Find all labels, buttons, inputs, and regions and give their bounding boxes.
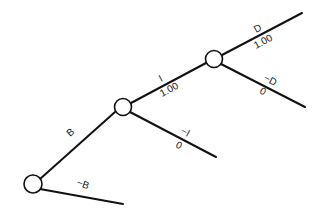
label-d-value: 1.00 [252,32,275,51]
edge-b [40,112,115,179]
chance-node-i [206,51,223,68]
label-not-b: −B [75,177,91,192]
chance-node-root [24,175,42,193]
label-not-i-value: 0 [174,139,184,152]
edge-not-i [130,112,216,157]
label-not-i: −I [179,125,192,139]
label-d: D [252,22,264,35]
edge-d [222,13,302,55]
chance-node-b [115,99,132,116]
label-b: B [64,126,76,139]
decision-tree-diagram: B −B I 1.00 −I 0 D 1.00 −D 0 [0,0,324,217]
edge-not-b [40,189,123,204]
label-i: I [157,73,165,84]
label-not-d-value: 0 [258,85,268,98]
